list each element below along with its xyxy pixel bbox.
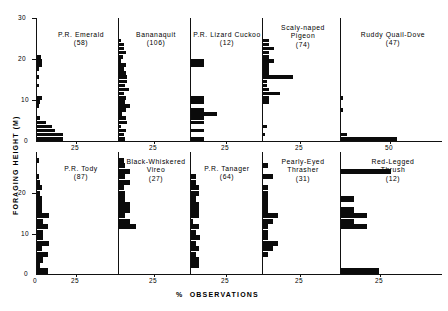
histogram-bar — [263, 75, 293, 79]
panel-plot-0 — [37, 18, 117, 141]
histogram-bar — [119, 224, 136, 229]
histogram-bar — [263, 213, 278, 218]
x-tick-label-bottom-zero: 0 — [33, 277, 37, 284]
histogram-bar — [37, 96, 42, 100]
histogram-bar — [191, 224, 199, 229]
histogram-bar — [37, 224, 48, 229]
histogram-bar — [263, 67, 269, 71]
histogram-bar — [37, 63, 42, 67]
panel-plot-6 — [119, 152, 189, 274]
histogram-bar — [119, 75, 127, 79]
x-axis-label: % OBSERVATIONS — [176, 291, 259, 298]
histogram-bar — [119, 55, 123, 59]
histogram-bar — [119, 196, 125, 201]
histogram-bar — [119, 47, 124, 51]
histogram-bar — [119, 71, 126, 75]
histogram-bar — [119, 43, 124, 47]
histogram-bar — [191, 121, 204, 125]
x-tick-label-top-c3: 25 — [295, 144, 303, 151]
histogram-bar — [191, 213, 199, 218]
histogram-bar — [37, 67, 39, 71]
histogram-bar — [119, 39, 121, 43]
histogram-bar — [119, 92, 124, 96]
x-tick-label-bottom-c2: 25 — [221, 277, 229, 284]
histogram-bar — [191, 100, 204, 104]
bottom-row-baseline — [36, 274, 442, 275]
panel-plot-3 — [263, 18, 339, 141]
histogram-bar — [119, 180, 130, 185]
y-axis-label: FORAGING HEIGHT (M) — [12, 116, 19, 215]
histogram-bar — [191, 202, 199, 207]
histogram-bar — [263, 84, 267, 88]
histogram-bar — [341, 207, 354, 212]
histogram-bar — [119, 125, 121, 129]
histogram-bar — [119, 163, 125, 168]
histogram-bar — [341, 268, 379, 273]
x-tick-label-top-c4: 50 — [385, 144, 393, 151]
histogram-bar — [341, 133, 347, 137]
histogram-bar — [37, 121, 46, 125]
histogram-bar — [119, 137, 125, 141]
histogram-bar — [263, 191, 268, 196]
x-tick-label-top-c0: 25 — [71, 144, 79, 151]
histogram-bar — [263, 163, 268, 168]
histogram-bar — [191, 230, 196, 235]
histogram-bar — [191, 96, 204, 100]
histogram-bar — [191, 235, 200, 240]
y-tick-label-top-30: 30 — [18, 14, 26, 21]
histogram-bar — [191, 207, 199, 212]
histogram-bar — [119, 219, 130, 224]
histogram-bar — [119, 96, 126, 100]
histogram-bar — [263, 51, 269, 55]
histogram-bar — [263, 246, 273, 251]
x-tick-label-bottom-c3: 25 — [295, 277, 303, 284]
histogram-bar — [341, 169, 391, 174]
histogram-bar — [263, 207, 268, 212]
histogram-bar — [341, 213, 367, 218]
top-row-baseline — [36, 141, 442, 142]
histogram-bar — [119, 202, 130, 207]
x-tick-label-bottom-c4: 25 — [375, 277, 383, 284]
histogram-bar — [37, 59, 42, 63]
y-tick-bottom-20 — [32, 193, 36, 194]
histogram-bar — [119, 84, 125, 88]
histogram-bar — [119, 104, 130, 108]
histogram-bar — [263, 174, 273, 179]
histogram-bar — [119, 116, 126, 120]
histogram-bar — [119, 63, 126, 67]
histogram-bar — [191, 185, 199, 190]
histogram-bar — [263, 224, 268, 229]
histogram-bar — [191, 129, 204, 133]
histogram-bar — [119, 174, 125, 179]
histogram-bar — [191, 257, 199, 262]
histogram-bar — [119, 112, 122, 116]
histogram-bar — [37, 133, 63, 137]
histogram-bar — [37, 191, 40, 196]
histogram-bar — [37, 202, 42, 207]
histogram-bar — [263, 96, 269, 100]
panel-plot-2 — [191, 18, 261, 141]
histogram-bar — [263, 202, 268, 207]
histogram-bar — [263, 230, 268, 235]
histogram-bar — [191, 246, 199, 251]
histogram-bar — [191, 137, 204, 141]
histogram-bar — [191, 108, 204, 112]
panel-plot-9 — [341, 152, 441, 274]
y-tick-top-10 — [32, 100, 36, 101]
histogram-bar — [263, 43, 269, 47]
y-tick-label-top-10: 10 — [21, 96, 29, 103]
panel-plot-7 — [191, 152, 261, 274]
histogram-bar — [37, 125, 52, 129]
histogram-bar — [119, 185, 124, 190]
histogram-bar — [37, 180, 40, 185]
y-tick-label-bottom-20: 20 — [18, 189, 26, 196]
histogram-bar — [37, 252, 48, 257]
histogram-bar — [37, 241, 49, 246]
panel-plot-5 — [37, 152, 117, 274]
histogram-bar — [119, 207, 130, 212]
histogram-bar — [191, 196, 196, 201]
histogram-bar — [191, 219, 193, 224]
histogram-bar — [119, 59, 121, 63]
histogram-bar — [263, 235, 268, 240]
histogram-bar — [191, 191, 199, 196]
